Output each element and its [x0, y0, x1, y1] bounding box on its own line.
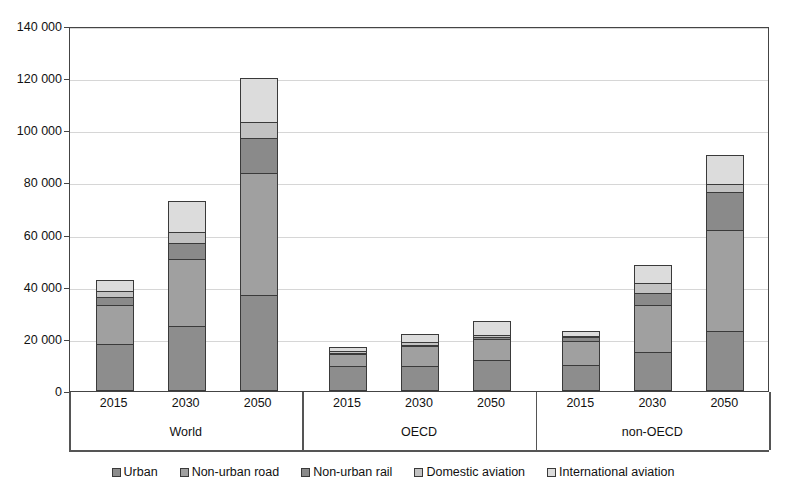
- bar-segment: [240, 138, 278, 175]
- bar-stack: [240, 79, 278, 391]
- legend-item-label: Domestic aviation: [426, 466, 525, 479]
- x-axis-tick-label: 2050: [244, 396, 272, 410]
- y-axis-tick-label: 40 000: [0, 281, 62, 294]
- x-axis-group-separator: [536, 392, 538, 450]
- bar-segment: [240, 122, 278, 139]
- legend-item[interactable]: International aviation: [547, 466, 674, 479]
- bar-stack: [706, 156, 744, 391]
- bar-stack: [473, 322, 511, 391]
- x-axis-tick-label: 2015: [566, 396, 594, 410]
- legend-item-label: Urban: [124, 466, 158, 479]
- x-axis-edge-rule: [69, 392, 71, 450]
- x-axis-group-separator: [302, 392, 304, 450]
- bar-stack: [562, 332, 600, 391]
- y-axis-tick-mark: [64, 79, 69, 80]
- y-axis-tick-mark: [64, 131, 69, 132]
- y-axis-tick-mark: [64, 27, 69, 28]
- bar-stack: [168, 202, 206, 391]
- bar-segment: [562, 365, 600, 391]
- x-axis-group-label: World: [169, 425, 201, 439]
- x-axis-tick-label: 2030: [405, 396, 433, 410]
- x-axis-tick-label: 2030: [172, 396, 200, 410]
- bar-stack: [96, 281, 134, 391]
- legend-item[interactable]: Non-urban rail: [301, 466, 392, 479]
- chart-container: 020 00040 00060 00080 000100 000120 0001…: [0, 0, 786, 502]
- bar-segment: [168, 201, 206, 234]
- bar-segment: [240, 173, 278, 296]
- bar-segment: [240, 295, 278, 391]
- x-axis-tick-label: 2050: [477, 396, 505, 410]
- bar-stack: [329, 348, 367, 391]
- x-axis-tick-label: 2015: [100, 396, 128, 410]
- x-axis-group-labels: WorldOECDnon-OECD: [69, 425, 769, 447]
- bar-segment: [634, 305, 672, 353]
- y-axis-tick-label: 100 000: [0, 125, 62, 138]
- bar-segment: [706, 331, 744, 391]
- bar-segment: [168, 243, 206, 260]
- y-axis-tick-mark: [64, 183, 69, 184]
- bar-segment: [706, 230, 744, 332]
- chart-legend: UrbanNon-urban roadNon-urban railDomesti…: [0, 466, 786, 479]
- bar-segment: [401, 346, 439, 367]
- x-axis-tick-label: 2030: [638, 396, 666, 410]
- plot-area: [69, 27, 769, 392]
- legend-swatch-icon: [301, 468, 310, 477]
- bar-segment: [562, 341, 600, 366]
- x-axis-group-label: non-OECD: [622, 425, 683, 439]
- bar-segment: [634, 352, 672, 391]
- bar-segment: [168, 326, 206, 391]
- bar-segment: [473, 321, 511, 337]
- legend-swatch-icon: [547, 468, 556, 477]
- legend-item[interactable]: Non-urban road: [180, 466, 280, 479]
- bar-segment: [473, 339, 511, 361]
- bar-segment: [473, 360, 511, 391]
- y-axis-tick-label: 0: [0, 386, 62, 399]
- y-axis-tick-label: 80 000: [0, 177, 62, 190]
- bar-stack: [401, 335, 439, 391]
- bar-segment: [634, 265, 672, 285]
- bar-segment: [96, 344, 134, 391]
- y-axis-tick-label: 140 000: [0, 21, 62, 34]
- x-axis-tick-label: 2015: [333, 396, 361, 410]
- y-axis-tick-mark: [64, 288, 69, 289]
- bar-segment: [96, 305, 134, 345]
- x-axis-group-label: OECD: [401, 425, 437, 439]
- legend-item-label: Non-urban rail: [313, 466, 392, 479]
- y-axis-tick-label: 60 000: [0, 229, 62, 242]
- x-axis-edge-rule: [769, 392, 771, 450]
- legend-swatch-icon: [180, 468, 189, 477]
- bar-segment: [329, 366, 367, 391]
- legend-swatch-icon: [414, 468, 423, 477]
- bar-segment: [240, 78, 278, 122]
- bar-segment: [401, 366, 439, 391]
- bars-layer: [70, 28, 768, 391]
- y-axis-tick-label: 120 000: [0, 73, 62, 86]
- bar-stack: [634, 266, 672, 391]
- legend-item[interactable]: Domestic aviation: [414, 466, 525, 479]
- x-axis-tick-labels: 201520302050201520302050201520302050: [69, 396, 769, 420]
- bar-segment: [168, 259, 206, 327]
- legend-item-label: International aviation: [559, 466, 674, 479]
- legend-swatch-icon: [112, 468, 121, 477]
- bar-segment: [706, 155, 744, 185]
- legend-item-label: Non-urban road: [192, 466, 280, 479]
- x-axis-bottom-rule: [69, 450, 769, 452]
- x-axis-tick-label: 2050: [710, 396, 738, 410]
- bar-segment: [706, 192, 744, 231]
- y-axis-tick-label: 20 000: [0, 334, 62, 347]
- legend-item[interactable]: Urban: [112, 466, 158, 479]
- y-axis-tick-mark: [64, 236, 69, 237]
- y-axis-tick-mark: [64, 340, 69, 341]
